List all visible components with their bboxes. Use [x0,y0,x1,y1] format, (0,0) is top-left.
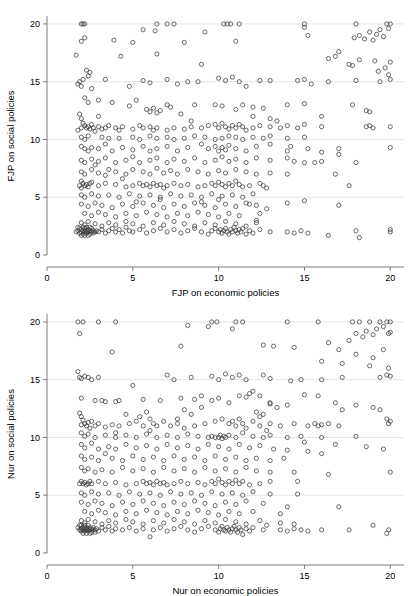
data-point [217,126,221,130]
data-point [189,193,193,197]
data-point [124,225,128,229]
data-point [268,171,272,175]
data-point [244,499,248,503]
data-point [326,233,330,237]
data-point [86,74,90,78]
data-point [285,124,289,128]
scatter-plot-figure: 0510152005101520FJP on economic policies… [0,0,413,596]
data-point [268,125,272,129]
data-point [244,160,248,164]
data-point [285,230,289,234]
data-point [206,212,210,216]
data-point [292,527,296,531]
data-point [213,122,217,126]
data-point [141,527,145,531]
data-point [74,53,78,57]
data-point [306,231,310,235]
data-point [189,375,193,379]
data-point [227,433,231,437]
data-point [320,359,324,363]
data-point [155,212,159,216]
data-point [172,527,176,531]
data-point [282,456,286,460]
data-point [206,232,210,236]
data-point [217,215,221,219]
data-point [268,422,272,426]
data-point [158,108,162,112]
data-point [165,160,169,164]
data-point [213,206,217,210]
x-tick-label: 10 [214,571,224,581]
data-point [79,465,83,469]
data-point [289,144,293,148]
data-point [285,529,289,533]
data-point [261,412,265,416]
data-point [254,410,258,414]
y-tick-label: 15 [30,375,40,385]
data-point [234,39,238,43]
data-point [313,160,317,164]
data-point [141,126,145,130]
data-point [124,185,128,189]
data-point [162,458,166,462]
data-point [155,52,159,56]
data-point [237,394,241,398]
data-point [234,107,238,111]
data-point [234,520,238,524]
data-point [172,227,176,231]
data-point [186,323,190,327]
data-point [175,149,179,153]
data-point [234,167,238,171]
data-point [182,426,186,430]
data-point [78,331,82,335]
data-point [254,144,258,148]
data-point [96,184,100,188]
data-point [107,221,111,225]
y-axis-title: FJP on social policies [5,90,16,181]
data-point [148,185,152,189]
data-point [134,419,138,423]
data-point [333,172,337,176]
data-point [278,528,282,532]
data-point [193,156,197,160]
panel-nur: 0510152005101520Nur on economic policies… [0,298,413,596]
data-point [241,185,245,189]
data-point [114,513,118,517]
data-point [292,522,296,526]
data-point [144,210,148,214]
data-point [230,327,234,331]
data-point [285,149,289,153]
data-point [258,519,262,523]
data-point [124,412,128,416]
data-point [196,185,200,189]
data-point [162,465,166,469]
data-point [268,117,272,121]
data-point [100,468,104,472]
data-point [131,454,135,458]
data-point [302,199,306,203]
data-point [96,98,100,102]
data-point [244,84,248,88]
data-point [141,467,145,471]
y-axis-title: Nur on social policies [5,389,16,479]
data-point [93,201,97,205]
data-point [357,236,361,240]
data-point [326,472,330,476]
data-point [237,512,241,516]
data-point [371,523,375,527]
data-point [337,203,341,207]
data-point [79,39,83,43]
data-point [320,125,324,129]
data-point [182,40,186,44]
data-point [193,134,197,138]
y-tick-label: 20 [30,317,40,327]
data-point [244,128,248,132]
data-point [278,512,282,516]
data-point [175,211,179,215]
data-point [151,519,155,523]
data-point [285,448,289,452]
data-point [223,219,227,223]
data-point [186,214,190,218]
data-point [285,156,289,160]
data-point [103,156,107,160]
